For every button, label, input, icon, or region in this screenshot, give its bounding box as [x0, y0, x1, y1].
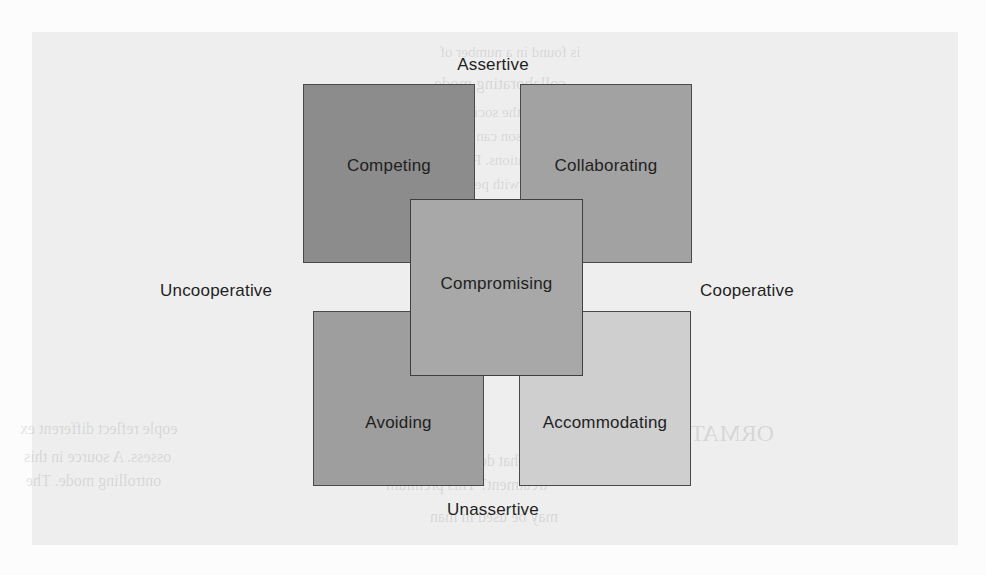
axis-label-uncooperative: Uncooperative — [160, 281, 272, 301]
mode-label-accommodating: Accommodating — [543, 413, 668, 433]
conflict-handling-modes-diagram: Assertive Uncooperative Cooperative Unas… — [0, 0, 986, 575]
mode-label-compromising: Compromising — [441, 274, 553, 294]
mode-label-collaborating: Collaborating — [555, 156, 658, 176]
mode-label-avoiding: Avoiding — [365, 413, 432, 433]
axis-label-cooperative: Cooperative — [700, 281, 794, 301]
axis-label-unassertive: Unassertive — [0, 500, 986, 520]
mode-label-competing: Competing — [347, 156, 431, 176]
axis-label-assertive: Assertive — [0, 55, 986, 75]
mode-box-compromising: Compromising — [410, 199, 583, 376]
scanned-page: is found in a number ofcollaborating mod… — [0, 0, 986, 575]
